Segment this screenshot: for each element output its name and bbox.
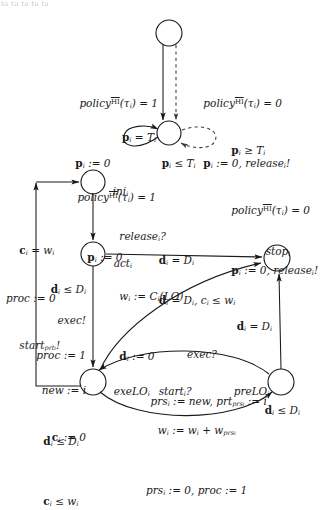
guard-act-to-stop: di = Di (152, 243, 194, 267)
node-top[interactable] (156, 20, 182, 46)
node-mid[interactable] (157, 121, 181, 145)
invariant-exelo: di ≤ Di ci ≤ wi (30, 401, 79, 510)
annotation-mid-right: pi ≥ Ti policyHI(τi) = 0 pi := 0, releas… (218, 110, 318, 301)
guard-exelo-to-stop: di = Di, ci ≤ wi (152, 283, 235, 307)
annotation-mid-invariant: pi ≤ Ti (155, 146, 196, 170)
annotation-exelo-to-prelo-updates: wi := wi + wprsi prsi := 0, proc := 1 (128, 390, 252, 510)
invariant-prelo: di ≤ Di (258, 393, 300, 417)
